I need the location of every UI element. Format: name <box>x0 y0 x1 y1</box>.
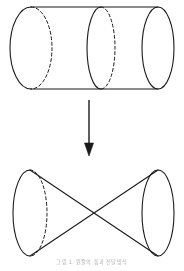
left-cone-base-front-arc <box>13 170 30 256</box>
arrow-head <box>85 143 94 156</box>
cylinder-left-cap-back-arc <box>31 7 52 89</box>
cylinder-shape <box>10 7 174 89</box>
cylinder-left-cap-front-arc <box>10 7 31 89</box>
right-cone-base-ellipse <box>142 170 174 256</box>
geometry-diagram <box>0 0 184 271</box>
left-cone-base-back-arc <box>30 170 47 256</box>
figure-caption: 그림 1. 원뿔의 통과 전달방식 <box>0 259 184 266</box>
cylinder-cross-section-front-arc <box>87 7 101 89</box>
transformation-arrow-icon <box>85 100 94 156</box>
figure-container: 그림 1. 원뿔의 통과 전달방식 <box>0 0 184 271</box>
double-cone-shape <box>13 170 174 256</box>
cylinder-cross-section-back-arc <box>101 7 115 89</box>
cylinder-right-cap-ellipse <box>142 7 174 89</box>
